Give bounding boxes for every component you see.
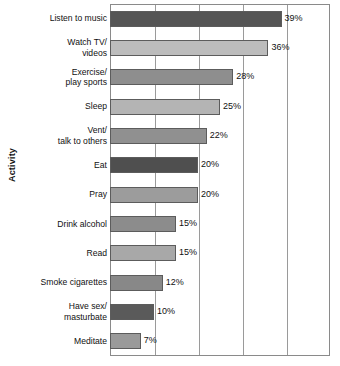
bar-row: Drink alcohol15%: [0, 209, 340, 238]
category-label: Sleep: [0, 101, 107, 112]
category-label: Listen to music: [0, 13, 107, 24]
category-label: Read: [0, 248, 107, 259]
bar-value-label: 7%: [144, 335, 157, 345]
bar: [110, 333, 141, 349]
bar-row: Vent/ talk to others22%: [0, 121, 340, 150]
bar-value-label: 15%: [179, 247, 197, 257]
bar-value-label: 39%: [285, 13, 303, 23]
bar-rows: Listen to music39%Watch TV/ videos36%Exe…: [0, 4, 340, 356]
category-label: Smoke cigarettes: [0, 277, 107, 288]
category-label: Eat: [0, 160, 107, 171]
bar-row: Listen to music39%: [0, 4, 340, 33]
category-label: Vent/ talk to others: [0, 125, 107, 146]
bar-value-label: 15%: [179, 218, 197, 228]
bar: [110, 187, 198, 203]
category-label: Watch TV/ videos: [0, 37, 107, 58]
bar-row: Pray20%: [0, 180, 340, 209]
bar: [110, 216, 176, 232]
bar-row: Sleep25%: [0, 92, 340, 121]
category-label: Meditate: [0, 336, 107, 347]
category-label: Exercise/ play sports: [0, 67, 107, 88]
bar-value-label: 25%: [223, 101, 241, 111]
bar: [110, 99, 220, 115]
bar-row: Smoke cigarettes12%: [0, 268, 340, 297]
bar-row: Watch TV/ videos36%: [0, 33, 340, 62]
bar-value-label: 12%: [166, 277, 184, 287]
bar: [110, 40, 268, 56]
bar-value-label: 28%: [236, 71, 254, 81]
bar-row: Have sex/ masturbate10%: [0, 297, 340, 326]
bar-value-label: 36%: [271, 42, 289, 52]
bar-chart: Activity Listen to music39%Watch TV/ vid…: [0, 0, 340, 366]
bar-row: Meditate7%: [0, 327, 340, 356]
bar-row: Exercise/ play sports28%: [0, 63, 340, 92]
category-label: Pray: [0, 189, 107, 200]
bar: [110, 304, 154, 320]
bar: [110, 69, 233, 85]
bar: [110, 157, 198, 173]
bar: [110, 11, 282, 27]
bar: [110, 128, 207, 144]
category-label: Drink alcohol: [0, 219, 107, 230]
bar: [110, 245, 176, 261]
bar-value-label: 20%: [201, 189, 219, 199]
bar-row: Read15%: [0, 239, 340, 268]
bar-value-label: 22%: [210, 130, 228, 140]
bar-value-label: 20%: [201, 159, 219, 169]
category-label: Have sex/ masturbate: [0, 301, 107, 322]
bar-value-label: 10%: [157, 306, 175, 316]
bar: [110, 275, 163, 291]
bar-row: Eat20%: [0, 151, 340, 180]
